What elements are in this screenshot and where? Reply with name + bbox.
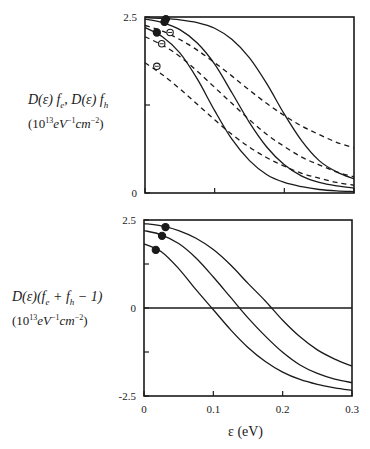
filled-marker: [162, 223, 169, 230]
dashed-curve: [145, 63, 354, 185]
bottom-panel: -2.502.500.10.20.3: [119, 214, 360, 415]
x-tick-label: 0.2: [276, 403, 290, 415]
filled-marker: [158, 232, 165, 239]
x-tick-label: 0: [141, 403, 147, 415]
solid-curve: [144, 224, 352, 367]
x-tick-label: 0.1: [206, 403, 220, 415]
x-tick-label: 0.3: [345, 403, 359, 415]
y-tick-label: 0: [132, 187, 138, 199]
bottom-y-axis-label: D(ε)(fe + fh − 1) (1013eV−1cm−2): [12, 289, 102, 329]
y-tick-label: -2.5: [119, 390, 137, 402]
y-tick-label: 2.5: [123, 11, 137, 23]
solid-curve: [144, 231, 352, 383]
y-tick-label: 2.5: [122, 214, 136, 226]
top-y-axis-label: D(ε) fe, D(ε) fh (1013eV−1cm−2): [28, 92, 108, 132]
filled-marker: [161, 18, 168, 25]
filled-marker: [153, 29, 160, 36]
figure: 02.5 -2.502.500.10.20.3: [0, 0, 370, 449]
x-axis-label: ε (eV): [228, 424, 263, 440]
filled-marker: [152, 246, 159, 253]
solid-curve: [145, 28, 354, 192]
plot-frame: [145, 17, 354, 193]
top-panel: 02.5: [123, 11, 354, 199]
solid-curve: [145, 18, 354, 179]
y-tick-label: 0: [131, 302, 137, 314]
